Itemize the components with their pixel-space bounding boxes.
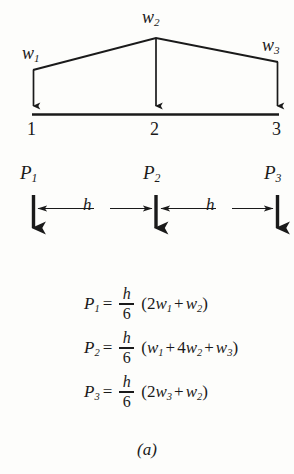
equation-P1-equals: = xyxy=(103,294,113,314)
load-label-w2: w2 xyxy=(142,8,160,26)
equation-P2: P2 = h 6 (w1+4w2+w3) xyxy=(84,330,238,366)
node-label-3: 3 xyxy=(272,120,281,138)
node-label-2: 2 xyxy=(150,120,159,138)
load-label-w3: w3 xyxy=(262,36,280,54)
figure-caption: (a) xyxy=(0,440,294,460)
fraction-denominator: 6 xyxy=(120,305,134,322)
equation-P3: P3 = h 6 (2w3+w2) xyxy=(84,374,208,410)
equation-P3-rhs: (2w3+w2) xyxy=(141,382,208,402)
load-label-w1: w1 xyxy=(22,44,40,62)
equation-P1-rhs: (2w1+w2) xyxy=(141,294,208,314)
equation-P1: P1 = h 6 (2w1+w2) xyxy=(84,286,208,322)
equation-P3-lhs: P3 xyxy=(84,382,100,402)
equation-P2-fraction: h 6 xyxy=(119,330,134,366)
equation-P1-fraction: h 6 xyxy=(119,286,134,322)
spacing-label-h1: h xyxy=(83,196,92,213)
fraction-numerator: h xyxy=(120,330,134,347)
spacing-label-h2: h xyxy=(206,196,215,213)
force-label-P3: P3 xyxy=(264,163,282,182)
fraction-numerator: h xyxy=(120,286,134,303)
equation-P3-fraction: h 6 xyxy=(119,374,134,410)
equation-P2-rhs: (w1+4w2+w3) xyxy=(141,338,238,358)
fraction-numerator: h xyxy=(120,374,134,391)
force-label-P2: P2 xyxy=(143,163,161,182)
force-label-P1: P1 xyxy=(20,163,38,182)
fraction-denominator: 6 xyxy=(120,393,134,410)
node-label-1: 1 xyxy=(27,120,36,138)
equation-P1-lhs: P1 xyxy=(84,294,100,314)
equation-P2-lhs: P2 xyxy=(84,338,100,358)
fraction-denominator: 6 xyxy=(120,349,134,366)
equation-P2-equals: = xyxy=(103,338,113,358)
trapezoidal-load-figure: w1 w2 w3 1 2 3 P1 P2 P3 h h P1 = xyxy=(0,0,294,474)
equation-P3-equals: = xyxy=(103,382,113,402)
